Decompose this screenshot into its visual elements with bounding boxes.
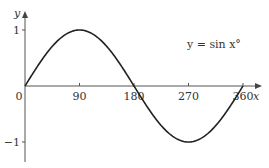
x-axis-label: x	[253, 90, 260, 103]
x-tick-label: 0	[16, 90, 23, 103]
y-tick-label: −1	[4, 136, 20, 149]
y-axis-label: y	[13, 7, 21, 20]
equation-label: y = sin x°	[186, 38, 241, 51]
y-axis-arrow-icon	[22, 11, 28, 18]
y-tick-label: 1	[13, 24, 20, 37]
x-tick-label: 90	[73, 90, 87, 103]
x-axis-arrow-icon	[255, 83, 262, 89]
axes	[22, 11, 262, 162]
sine-plot: 0901802703601−1 x y y = sin x°	[0, 0, 269, 168]
x-tick-label: 270	[178, 90, 199, 103]
